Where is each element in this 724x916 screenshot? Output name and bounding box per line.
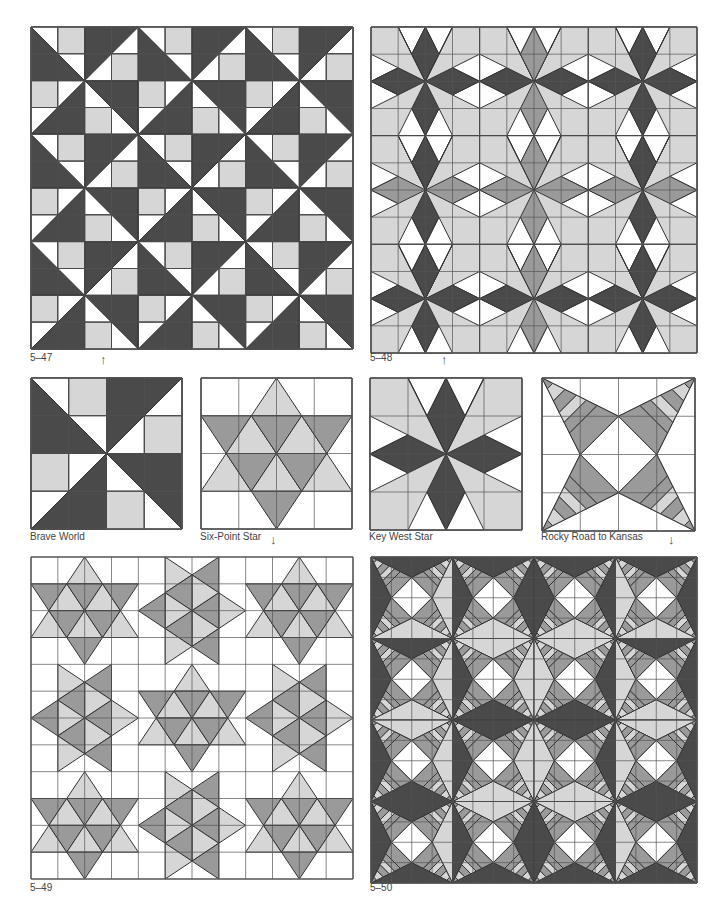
figure-label-fig-5-47: 5–47 (30, 352, 52, 363)
figure-label-fig-5-49: 5–49 (30, 882, 52, 893)
rocky-road-to-kansas-block (541, 377, 696, 532)
brave-world-block (30, 377, 183, 530)
block-label-six-point-star: Six-Point Star (200, 531, 261, 542)
arrow-down-six-point-icon: ↓ (270, 533, 277, 546)
figure-label-fig-5-50: 5–50 (370, 882, 392, 893)
six-point-star-block (200, 377, 353, 530)
key-west-star-block (369, 377, 523, 531)
fig-5-47-quilt (30, 26, 354, 350)
arrow-down-rocky-road-icon: ↓ (668, 533, 675, 546)
block-label-key-west-star: Key West Star (369, 531, 433, 542)
arrow-up-5-47-icon: ↑ (100, 353, 107, 366)
block-label-rocky-road-to-kansas: Rocky Road to Kansas (541, 531, 643, 542)
fig-5-50-quilt (370, 556, 698, 884)
fig-5-49-quilt (30, 556, 354, 880)
arrow-up-5-48-icon: ↑ (441, 353, 448, 366)
block-label-brave-world: Brave World (30, 531, 85, 542)
figure-label-fig-5-48: 5–48 (370, 352, 392, 363)
fig-5-48-quilt (370, 26, 698, 354)
